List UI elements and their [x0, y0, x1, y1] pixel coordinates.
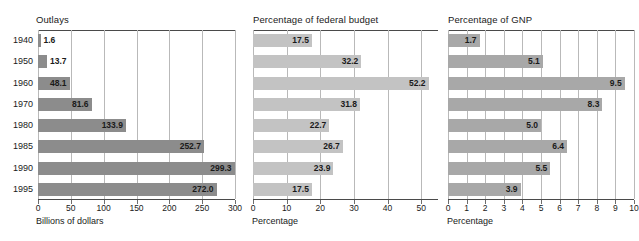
year-axis-label: 1940 [0, 34, 33, 47]
bar-value-label: 23.9 [314, 162, 331, 175]
bar [38, 55, 47, 68]
bar-row: 17.5 [253, 30, 438, 51]
axis-tick-label: 0 [251, 203, 256, 213]
axis-tick-label: 200 [162, 203, 176, 213]
panel-outlays: Outlays 1.613.748.181.6133.9252.7299.327… [0, 0, 240, 241]
bar [448, 140, 567, 153]
bar-row: 299.3 [38, 158, 235, 179]
year-axis-label: 1970 [0, 98, 33, 111]
axis-tick-label: 3 [501, 203, 506, 213]
bar-value-label: 32.2 [342, 55, 359, 68]
panel-federal-budget-plot: 17.532.252.231.822.726.723.917.5 [253, 30, 438, 200]
axis-tick-label: 50 [416, 203, 425, 213]
bar-row: 48.1 [38, 73, 235, 94]
bar-row: 81.6 [38, 94, 235, 115]
axis-tick-label: 50 [66, 203, 75, 213]
bar-row: 3.9 [448, 179, 634, 200]
year-axis-label: 1990 [0, 162, 33, 175]
axis-tick-label: 10 [629, 203, 638, 213]
axis-tick-label: 8 [594, 203, 599, 213]
panel-outlays-axis-label: Billions of dollars [36, 216, 104, 226]
gridline [634, 30, 635, 199]
bar-value-label: 272.0 [192, 183, 213, 196]
bar-row: 5.5 [448, 158, 634, 179]
panel-federal-budget-axis-label: Percentage [252, 216, 298, 226]
axis-tick-label: 9 [613, 203, 618, 213]
bar-value-label: 52.2 [409, 77, 426, 90]
bar-value-label: 26.7 [323, 140, 340, 153]
bar-value-label: 48.1 [50, 77, 67, 90]
bar-row: 5.1 [448, 51, 634, 72]
bar [38, 34, 41, 47]
bar-value-label: 1.7 [465, 34, 477, 47]
axis-tick-label: 0 [446, 203, 451, 213]
axis-tick-label: 250 [195, 203, 209, 213]
bar [253, 77, 429, 90]
axis-tick-label: 30 [349, 203, 358, 213]
axis-tick-label: 5 [539, 203, 544, 213]
bar-value-label: 252.7 [180, 140, 201, 153]
panel-gnp: Percentage of GNP 1.75.19.58.35.06.45.53… [438, 0, 635, 241]
bar-row: 8.3 [448, 94, 634, 115]
axis-tick-label: 0 [36, 203, 41, 213]
bar-value-label: 299.3 [210, 162, 231, 175]
panel-federal-budget-title: Percentage of federal budget [253, 14, 378, 25]
axis-tick-label: 4 [520, 203, 525, 213]
bar-value-label: 5.1 [528, 55, 540, 68]
axis-tick-label: 2 [483, 203, 488, 213]
bar-value-label: 9.5 [610, 77, 622, 90]
bar-row: 13.7 [38, 51, 235, 72]
year-axis-label: 1950 [0, 55, 33, 68]
bar-value-label: 5.5 [535, 162, 547, 175]
gridline [235, 30, 236, 199]
year-axis-label: 1985 [0, 140, 33, 153]
bar-row: 1.7 [448, 30, 634, 51]
bar-row: 6.4 [448, 136, 634, 157]
bar [38, 183, 217, 196]
panel-gnp-title: Percentage of GNP [448, 14, 532, 25]
bar-value-label: 8.3 [588, 98, 600, 111]
bar-value-label: 1.6 [44, 34, 56, 47]
bar-value-label: 3.9 [506, 183, 518, 196]
bar-row: 1.6 [38, 30, 235, 51]
year-axis-label: 1995 [0, 183, 33, 196]
bar-value-label: 17.5 [292, 34, 309, 47]
bar-row: 252.7 [38, 136, 235, 157]
bar-row: 17.5 [253, 179, 438, 200]
bar-row: 31.8 [253, 94, 438, 115]
axis-tick-label: 20 [316, 203, 325, 213]
bar-row: 272.0 [38, 179, 235, 200]
bar-row: 133.9 [38, 115, 235, 136]
bar-value-label: 17.5 [292, 183, 309, 196]
axis-tick-label: 6 [557, 203, 562, 213]
panel-outlays-title: Outlays [36, 14, 69, 25]
bar-value-label: 13.7 [50, 55, 67, 68]
axis-tick-label: 1 [464, 203, 469, 213]
bar-value-label: 133.9 [102, 119, 123, 132]
axis-tick-label: 40 [383, 203, 392, 213]
bar-row: 22.7 [253, 115, 438, 136]
bar-value-label: 5.0 [526, 119, 538, 132]
bar-row: 9.5 [448, 73, 634, 94]
axis-tick-label: 7 [576, 203, 581, 213]
bar-row: 32.2 [253, 51, 438, 72]
bar-row: 5.0 [448, 115, 634, 136]
axis-tick-label: 10 [282, 203, 291, 213]
year-axis-label: 1960 [0, 77, 33, 90]
bar-value-label: 22.7 [310, 119, 327, 132]
bar-value-label: 6.4 [552, 140, 564, 153]
bar [38, 162, 235, 175]
bar-value-label: 81.6 [72, 98, 89, 111]
bar [448, 77, 625, 90]
bar [448, 98, 602, 111]
panel-federal-budget: Percentage of federal budget 17.532.252.… [240, 0, 438, 241]
axis-tick-label: 100 [97, 203, 111, 213]
panel-outlays-plot: 1.613.748.181.6133.9252.7299.3272.0 [38, 30, 235, 200]
bar-row: 23.9 [253, 158, 438, 179]
year-axis-label: 1980 [0, 119, 33, 132]
axis-tick-label: 150 [129, 203, 143, 213]
bar-row: 26.7 [253, 136, 438, 157]
bar-value-label: 31.8 [340, 98, 357, 111]
panel-gnp-plot: 1.75.19.58.35.06.45.53.9 [448, 30, 634, 200]
